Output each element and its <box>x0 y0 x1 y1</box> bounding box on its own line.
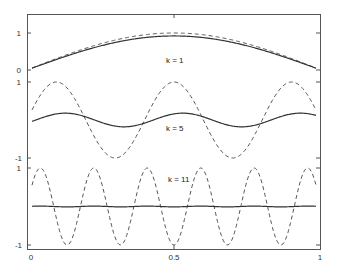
x-axis: 0 0.5 1 <box>29 14 323 262</box>
y-tick-label: -1 <box>15 241 23 250</box>
solid-curve <box>32 206 316 207</box>
plot-figure: k = 1 1 0 k = 5 1 -1 k = 11 1 -1 0 0.5 <box>0 0 339 267</box>
y-tick-label: 1 <box>17 29 22 38</box>
panel-k11: k = 11 1 -1 <box>15 164 320 250</box>
annotation-label: k = 5 <box>166 124 184 133</box>
y-tick-label: -1 <box>15 154 23 163</box>
annotation-label: k = 11 <box>168 175 190 184</box>
y-tick-label: 1 <box>17 78 22 87</box>
x-tick-label: 0 <box>29 253 34 262</box>
y-tick-label: 1 <box>17 164 22 173</box>
panel-k5: k = 5 1 -1 <box>15 78 320 163</box>
x-tick-label: 0.5 <box>168 253 180 262</box>
dashed-curve <box>32 82 316 158</box>
panel-k1: k = 1 1 0 <box>17 29 320 75</box>
annotation-label: k = 1 <box>166 56 184 65</box>
x-tick-label: 1 <box>318 253 323 262</box>
y-tick-label: 0 <box>17 66 22 75</box>
